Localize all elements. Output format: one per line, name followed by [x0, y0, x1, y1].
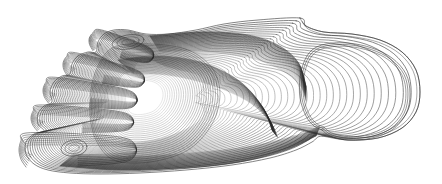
contour-map-canvas	[0, 0, 442, 184]
foot-contour-figure	[0, 0, 442, 184]
